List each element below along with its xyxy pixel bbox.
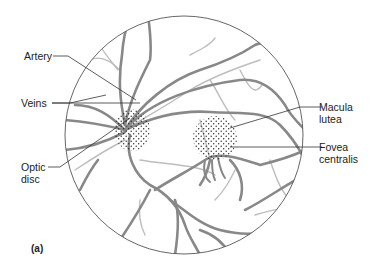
- label-macula-lutea: Macula lutea: [319, 101, 353, 125]
- blood-vessels: [65, 15, 305, 255]
- fundus-outline: [65, 16, 303, 254]
- label-fovea-line1: Fovea: [319, 141, 358, 153]
- label-macula-line1: Macula: [319, 101, 353, 113]
- label-artery: Artery: [24, 50, 52, 62]
- panel-label: (a): [31, 243, 43, 254]
- label-fovea-line2: centralis: [319, 153, 358, 165]
- label-optic-disc-line1: Optic: [21, 161, 46, 173]
- retina-diagram: [0, 0, 373, 276]
- optic-disc: [114, 109, 150, 151]
- macula-lutea: [193, 116, 237, 160]
- label-fovea-centralis: Fovea centralis: [319, 141, 358, 165]
- label-optic-disc-line2: disc: [21, 173, 46, 185]
- label-veins: Veins: [21, 97, 47, 109]
- label-optic-disc: Optic disc: [21, 161, 46, 185]
- label-macula-line2: lutea: [319, 113, 353, 125]
